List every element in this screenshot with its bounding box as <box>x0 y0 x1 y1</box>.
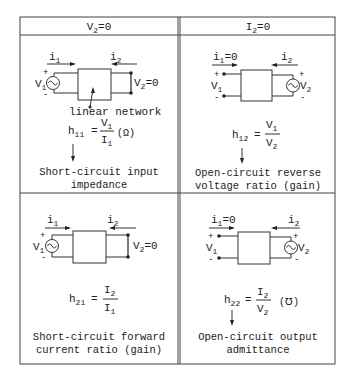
cell-h12: i1=0 i2 + - V1 + - V2 h <box>195 51 321 192</box>
description-line2: voltage ratio (gain) <box>195 180 321 192</box>
unit-ohm: (Ω) <box>117 128 135 139</box>
description-line2: impedance <box>71 179 128 191</box>
numerator: I2 <box>104 284 116 298</box>
arrow-left-icon <box>109 226 115 230</box>
source-v1-label: V1 <box>35 78 47 92</box>
minus-sign: - <box>300 93 305 103</box>
minus-sign: - <box>208 255 213 265</box>
numerator: V1 <box>266 119 278 133</box>
down-arrow-icon <box>230 320 234 326</box>
current-i2-label: i2 <box>107 214 119 228</box>
plus-sign: + <box>293 232 298 242</box>
description-line1: Short-circuit input <box>39 166 159 178</box>
source-v2-label: V2 <box>298 242 310 256</box>
formula-h11: h11 = V1 I1 (Ω) <box>68 117 135 162</box>
numerator: V1 <box>101 117 113 131</box>
param-h12: h12 <box>232 129 248 143</box>
param-h21: h21 <box>69 293 85 307</box>
v2-short-label: V2=0 <box>134 77 159 91</box>
circuit-diagram: i1=0 i2 + - V1 + - V2 <box>211 51 312 103</box>
plus-sign: + <box>208 232 213 242</box>
current-i1-label: i1=0 <box>213 51 238 65</box>
unit-mho: (℧) <box>279 297 299 308</box>
formula-h22: h22 = I2 V2 (℧) <box>224 286 299 326</box>
cell-h11: i1 i2 + - V1 V2=0 <box>35 51 162 191</box>
equals-sign: = <box>245 294 252 306</box>
description-line1: Open-circuit reverse <box>195 167 321 179</box>
current-i1-label: i1=0 <box>211 214 236 228</box>
cell-h22: i1=0 i2 + - V1 + - V2 h22 = <box>198 214 318 356</box>
network-box <box>78 69 111 100</box>
arrow-right-icon <box>65 226 71 230</box>
cell-h21: i1 i2 + - V1 V2=0 h21 = I2 <box>33 214 165 356</box>
plus-sign: + <box>214 70 219 80</box>
formula-h12: h12 = V1 V2 <box>232 119 280 164</box>
current-i2-label: i2 <box>288 214 300 228</box>
source-v2-label: V2 <box>300 80 312 94</box>
formula-h21: h21 = I2 I1 <box>69 284 118 316</box>
v2-short-label: V2=0 <box>133 240 158 254</box>
param-h11: h11 <box>68 125 84 139</box>
arrow-left-icon <box>271 226 277 230</box>
equals-sign: = <box>91 293 98 305</box>
arrow-right-icon <box>232 63 238 67</box>
header-v2-zero: V2=0 <box>87 21 112 35</box>
minus-sign: - <box>214 93 219 103</box>
denominator: I1 <box>104 302 116 316</box>
description-line2: admittance <box>226 344 289 356</box>
v1-open-label: V1 <box>206 242 218 256</box>
current-i2-label: i2 <box>281 51 293 65</box>
h-parameter-table: V2=0 I2=0 i1 i2 + - V1 <box>0 0 353 382</box>
arrow-up-icon <box>91 87 95 93</box>
equals-sign: = <box>91 125 98 137</box>
arrow-right-icon <box>70 62 76 66</box>
circuit-diagram: i1=0 i2 + - V1 + - V2 <box>206 214 310 265</box>
denominator: V2 <box>257 303 269 317</box>
equals-sign: = <box>254 129 261 141</box>
minus-sign: - <box>294 255 299 265</box>
arrow-right-icon <box>229 226 235 230</box>
header-i2-zero: I2=0 <box>246 21 271 35</box>
numerator: I2 <box>257 286 269 300</box>
current-i1-label: i1 <box>47 214 59 228</box>
network-box <box>241 70 272 101</box>
current-i1-label: i1 <box>49 51 61 65</box>
arrow-left-icon <box>271 63 277 67</box>
plus-sign: + <box>40 231 45 241</box>
source-v1-label: V1 <box>33 241 45 255</box>
plus-sign: + <box>299 70 304 80</box>
v1-open-label: V1 <box>211 80 223 94</box>
network-box <box>73 231 106 263</box>
description-line1: Open-circuit output <box>198 331 318 343</box>
description-line1: Short-circuit forward <box>33 331 165 343</box>
denominator: I1 <box>101 134 113 148</box>
down-arrow-icon <box>71 156 75 162</box>
circuit-diagram: i1 i2 + - V1 V2=0 <box>35 51 162 118</box>
network-box <box>238 232 270 264</box>
linear-network-label: linear network <box>69 106 162 118</box>
circuit-diagram: i1 i2 + - V1 V2=0 <box>33 214 158 263</box>
denominator: V2 <box>266 137 278 151</box>
down-arrow-icon <box>240 158 244 164</box>
description-line2: current ratio (gain) <box>36 344 162 356</box>
plus-sign: + <box>43 68 48 78</box>
param-h22: h22 <box>224 294 240 308</box>
